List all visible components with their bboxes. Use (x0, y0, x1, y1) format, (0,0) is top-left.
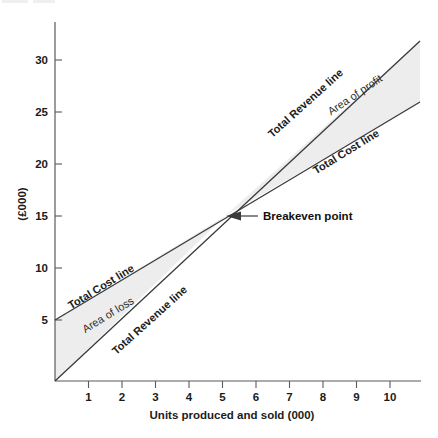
y-axis-ticks (55, 60, 62, 320)
y-tick-label-10: 10 (35, 262, 48, 274)
x-tick-label-2: 2 (119, 391, 125, 403)
x-axis-ticks (89, 381, 391, 388)
y-tick-label-25: 25 (35, 106, 48, 118)
x-tick-label-8: 8 (320, 391, 327, 403)
x-tick-label-6: 6 (253, 391, 259, 403)
y-axis-title: (£000) (16, 187, 28, 220)
chart-canvas: 30 25 20 15 10 5 1 2 3 4 5 6 7 (0, 0, 438, 438)
breakeven-point-label: Breakeven point (263, 210, 353, 222)
x-axis-title: Units produced and sold (000) (150, 409, 315, 421)
y-tick-label-30: 30 (35, 54, 48, 66)
x-tick-label-1: 1 (85, 391, 92, 403)
x-tick-label-9: 9 (353, 391, 359, 403)
x-tick-label-10: 10 (384, 391, 397, 403)
region-area-of-profit (225, 41, 420, 216)
x-tick-label-7: 7 (286, 391, 292, 403)
x-tick-label-3: 3 (152, 391, 158, 403)
x-tick-label-4: 4 (186, 391, 193, 403)
x-axis-tick-labels: 1 2 3 4 5 6 7 8 9 10 (85, 391, 396, 403)
y-axis-tick-labels: 30 25 20 15 10 5 (35, 54, 48, 326)
y-tick-label-5: 5 (42, 314, 49, 326)
scan-artifact-top-left (2, 0, 28, 3)
x-tick-label-5: 5 (219, 391, 226, 403)
y-tick-label-15: 15 (35, 210, 48, 222)
breakeven-chart: 30 25 20 15 10 5 1 2 3 4 5 6 7 (0, 0, 438, 438)
scan-artifact-top-left-2 (33, 0, 55, 3)
y-tick-label-20: 20 (35, 158, 48, 170)
